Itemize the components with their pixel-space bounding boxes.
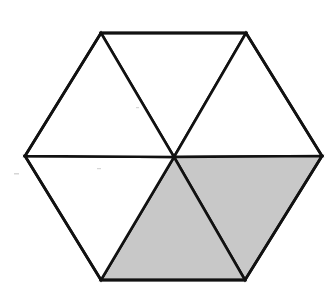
triangle-group xyxy=(25,33,322,280)
hexagon-fraction-diagram xyxy=(0,0,333,294)
